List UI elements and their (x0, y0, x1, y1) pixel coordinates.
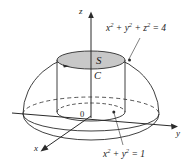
sphere-eq-plus-2: + (132, 23, 143, 33)
sphere-equation-leader-line (129, 38, 140, 59)
x-axis-line (45, 116, 91, 148)
sphere-eq-equals: = 4 (150, 23, 166, 33)
surface-label-S: S (96, 55, 102, 66)
cyl-eq-plus-1: + (110, 149, 121, 159)
curve-label-C: C (94, 71, 101, 82)
origin-label: 0 (80, 110, 84, 119)
cylinder-equation-label: x2 + y2 = 1 (103, 148, 145, 160)
cyl-eq-equals: = 1 (129, 149, 145, 159)
y-axis-label: y (176, 129, 180, 138)
figure-container: x2 + y2 + z2 = 4 x2 + y2 = 1 z y x 0 S C (0, 0, 191, 168)
x-axis-label: x (34, 144, 38, 153)
sphere-eq-plus-1: + (113, 23, 124, 33)
z-axis-label: z (79, 7, 83, 16)
sphere-equation-label: x2 + y2 + z2 = 4 (106, 22, 166, 34)
cylinder-equation-leader-dot (112, 111, 115, 114)
z-axis-arrowhead (88, 12, 94, 19)
x-axis-arrowhead (41, 145, 49, 152)
sphere-equation-leader-dot (128, 59, 131, 62)
